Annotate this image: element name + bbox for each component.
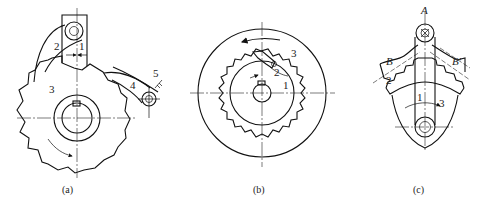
caption-a: (a) <box>62 184 73 196</box>
label-3: 3 <box>439 97 445 109</box>
label-1: 1 <box>79 40 85 52</box>
ratchet-mechanism-diagram: 2 1 3 4 5 (a) 3 2 1 (b) <box>0 0 481 206</box>
panel-b: 3 2 1 (b) <box>190 22 335 196</box>
pawl-2 <box>34 25 65 82</box>
label-2: 2 <box>274 66 280 78</box>
label-2: 2 <box>54 40 60 52</box>
label-5: 5 <box>153 67 159 79</box>
label-B-prime: B′ <box>452 55 462 67</box>
pawl-pivot <box>65 22 83 40</box>
label-B: B <box>386 55 393 67</box>
panel-c: A B B′ 2 1 3 (c) <box>373 4 470 196</box>
caption-c: (c) <box>413 184 424 196</box>
label-1: 1 <box>417 91 423 103</box>
panel-a: 2 1 3 4 5 (a) <box>17 8 162 196</box>
label-2: 2 <box>386 74 392 86</box>
label-A: A <box>420 4 428 16</box>
saw-tooth-wheel <box>17 56 130 173</box>
label-1: 1 <box>283 79 289 91</box>
label-3: 3 <box>291 47 297 59</box>
rotation-arrow <box>242 39 280 42</box>
pawl-4 <box>104 72 150 88</box>
caption-b: (b) <box>253 184 265 196</box>
label-3: 3 <box>49 83 55 95</box>
label-4: 4 <box>130 79 136 91</box>
